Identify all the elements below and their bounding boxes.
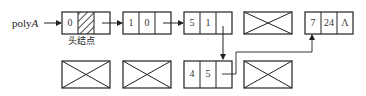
cell-coef: 7 [305,17,321,29]
cell-coef: 1 [123,17,139,29]
free-node-crossed [62,61,110,88]
cell-coef: 5 [184,17,200,29]
cell-coef: 0 [62,17,78,29]
cell-exp: 5 [200,68,216,80]
null-pointer-symbol: Λ [337,17,353,29]
poly-a-label: polyA [12,17,38,29]
link-arrow-up [222,35,312,74]
free-node-crossed [244,12,292,34]
head-node-label: 头结点 [68,35,95,47]
linked-list-diagram: polyA 头结点 0 1 0 5 1 7 24 Λ 4 5 [0,0,366,96]
cell-exp: 1 [200,17,216,29]
cell-coef: 4 [184,68,200,80]
free-node-crossed [244,61,292,88]
free-node-crossed [123,61,171,88]
cell-exp: 24 [321,17,337,29]
cell-exp: 0 [139,17,155,29]
